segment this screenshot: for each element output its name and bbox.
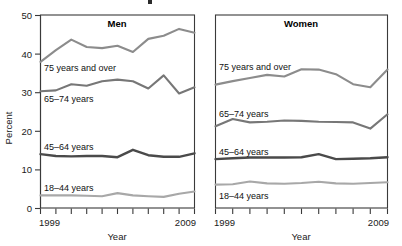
series-label-men-45-64: 45–64 years <box>44 142 94 152</box>
x-tick-label-men-2009: 2009 <box>175 217 196 228</box>
series-women-18-44 <box>216 182 388 185</box>
y-tick-label-0: 0 <box>27 203 32 214</box>
y-axis-title: Percent <box>3 111 14 144</box>
chart-figure: 50 40 30 20 10 0 Percent Men <box>0 0 402 246</box>
panel-men: Men 1999 2009 Year <box>39 15 196 242</box>
y-tick-label-20: 20 <box>21 126 32 137</box>
x-tick-label-women-2009: 2009 <box>368 217 389 228</box>
series-label-women-18-44: 18–44 years <box>219 191 269 201</box>
series-label-men-18-44: 18–44 years <box>44 183 94 193</box>
series-label-men-75-and-over: 75 years and over <box>44 63 116 73</box>
panel-women-title: Women <box>284 18 318 29</box>
y-tick-label-50: 50 <box>21 10 32 21</box>
y-tick-label-40: 40 <box>21 49 32 60</box>
panel-men-x-ticks <box>41 209 195 215</box>
y-tick-label-10: 10 <box>21 164 32 175</box>
clipped-title-fragment <box>148 0 152 4</box>
x-axis-title-women: Year <box>291 231 310 242</box>
series-label-men-65-74: 65–74 years <box>44 94 94 104</box>
panel-women: Women 1999 2009 Year <box>214 15 389 242</box>
x-tick-label-women-1999: 1999 <box>214 217 235 228</box>
panel-women-x-ticks <box>216 209 388 215</box>
y-tick-label-30: 30 <box>21 87 32 98</box>
series-men-75-and-over <box>41 29 195 62</box>
series-label-women-75-and-over: 75 years and over <box>219 62 291 72</box>
x-axis-title-men: Year <box>107 231 126 242</box>
x-tick-label-men-1999: 1999 <box>39 217 60 228</box>
series-label-women-45-64: 45–64 years <box>219 147 269 157</box>
panel-men-title: Men <box>108 18 127 29</box>
series-men-65-74 <box>41 75 195 93</box>
chart-svg: 50 40 30 20 10 0 Percent Men <box>0 0 402 246</box>
y-axis: 50 40 30 20 10 0 Percent <box>3 10 41 214</box>
series-label-women-65-74: 65–74 years <box>219 109 269 119</box>
